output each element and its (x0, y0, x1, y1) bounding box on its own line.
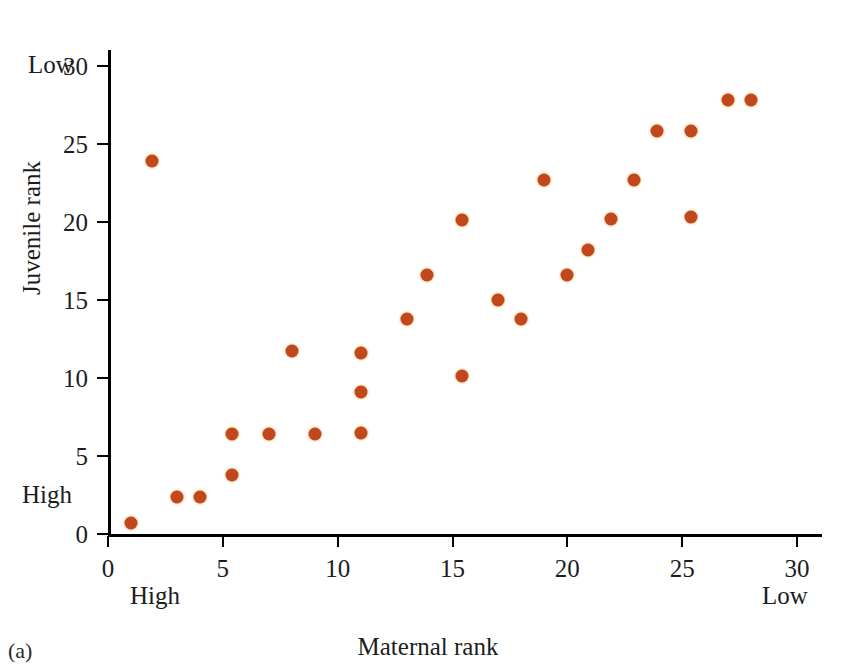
data-point (421, 268, 434, 281)
y-tick-label-5: 5 (30, 443, 88, 468)
scatter-figure: Low High Juvenile rank High Low Maternal… (0, 0, 868, 671)
x-axis-right-label: Low (762, 583, 808, 608)
y-tick-label-15: 15 (30, 287, 88, 312)
data-point (354, 426, 367, 439)
data-point (455, 370, 468, 383)
data-point (627, 173, 640, 186)
x-tick-0 (107, 536, 109, 547)
data-point (354, 346, 367, 359)
x-tick-10 (337, 536, 339, 547)
data-point (354, 385, 367, 398)
data-point (226, 468, 239, 481)
x-tick-30 (796, 536, 798, 547)
y-tick-label-25: 25 (30, 131, 88, 156)
x-tick-20 (566, 536, 568, 547)
y-tick-25 (97, 143, 108, 145)
data-point (455, 214, 468, 227)
x-tick-15 (452, 536, 454, 547)
data-point (561, 268, 574, 281)
x-tick-5 (222, 536, 224, 547)
x-tick-label-0: 0 (102, 556, 115, 581)
data-point (124, 517, 137, 530)
x-axis-title: Maternal rank (358, 634, 499, 659)
data-point (685, 125, 698, 138)
data-point (745, 93, 758, 106)
y-tick-5 (97, 455, 108, 457)
x-tick-label-15: 15 (440, 556, 465, 581)
data-point (226, 428, 239, 441)
y-axis-bottom-label: High (22, 482, 72, 507)
data-point (285, 345, 298, 358)
data-point (515, 312, 528, 325)
x-tick-label-25: 25 (670, 556, 695, 581)
x-tick-25 (681, 536, 683, 547)
plot-area: 051015202530 051015202530 (108, 50, 820, 534)
panel-caption: (a) (8, 638, 32, 664)
data-point (145, 154, 158, 167)
x-tick-label-5: 5 (217, 556, 230, 581)
y-tick-label-10: 10 (30, 365, 88, 390)
x-tick-label-20: 20 (555, 556, 580, 581)
data-point (492, 293, 505, 306)
data-point (685, 211, 698, 224)
y-tick-20 (97, 221, 108, 223)
data-point (722, 93, 735, 106)
data-point (400, 312, 413, 325)
data-point (538, 173, 551, 186)
data-point (193, 490, 206, 503)
y-tick-0 (97, 533, 108, 535)
data-point (650, 125, 663, 138)
x-axis-spine (108, 534, 822, 537)
y-tick-label-0: 0 (30, 522, 88, 547)
y-tick-10 (97, 377, 108, 379)
x-tick-label-10: 10 (325, 556, 350, 581)
data-point (308, 428, 321, 441)
y-tick-30 (97, 65, 108, 67)
data-point (170, 490, 183, 503)
y-tick-label-20: 20 (30, 209, 88, 234)
data-point (262, 428, 275, 441)
x-tick-label-30: 30 (785, 556, 810, 581)
x-axis-left-label: High (130, 583, 180, 608)
data-point (582, 243, 595, 256)
y-tick-label-30: 30 (30, 53, 88, 78)
y-tick-15 (97, 299, 108, 301)
y-axis-spine (108, 50, 111, 536)
data-point (604, 212, 617, 225)
